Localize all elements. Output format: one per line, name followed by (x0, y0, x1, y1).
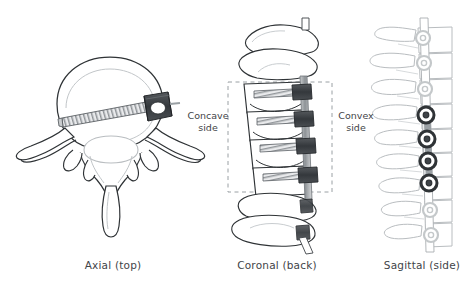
label-concave-side: Concave side (182, 110, 234, 134)
coronal-tether-stub-top (302, 18, 309, 30)
sagittal-marker-light-1 (416, 31, 430, 45)
coronal-screw-head-2 (294, 111, 314, 127)
label-convex-line2: side (332, 122, 380, 134)
spine-instrumentation-figure (0, 0, 475, 286)
coronal-screw-1 (254, 89, 293, 98)
sagittal-marker-dark-2 (419, 131, 435, 147)
label-concave-line1: Concave (188, 110, 229, 121)
sagittal-marker-light-4 (423, 203, 437, 217)
caption-axial: Axial (top) (58, 259, 168, 271)
caption-sagittal: Sagittal (side) (372, 259, 472, 271)
axial-tether-tail (170, 103, 180, 104)
coronal-screw-4 (263, 172, 299, 181)
axial-screw-head-aperture (151, 102, 166, 114)
axial-screw-head (144, 92, 172, 121)
coronal-screw-head-3 (296, 138, 316, 154)
sagittal-marker-light-2 (417, 56, 431, 70)
coronal-lower-screw-head-1 (300, 199, 313, 213)
sagittal-marker-dark-1 (418, 107, 434, 123)
label-convex-side: Convex side (332, 110, 380, 134)
coronal-screw-head-1 (292, 84, 312, 100)
label-concave-line2: side (182, 122, 234, 134)
coronal-screw-3 (260, 143, 297, 152)
sagittal-marker-light-3 (418, 82, 432, 96)
label-convex-line1: Convex (338, 110, 373, 121)
sagittal-marker-light-5 (424, 228, 438, 242)
caption-coronal: Coronal (back) (222, 259, 332, 271)
axial-spinous-process (102, 186, 120, 237)
axial-spinal-canal (84, 136, 138, 163)
coronal-screw-head-4 (298, 167, 318, 183)
coronal-screw-2 (257, 116, 295, 125)
sagittal-marker-dark-3 (420, 153, 436, 169)
sagittal-marker-dark-4 (421, 175, 437, 191)
